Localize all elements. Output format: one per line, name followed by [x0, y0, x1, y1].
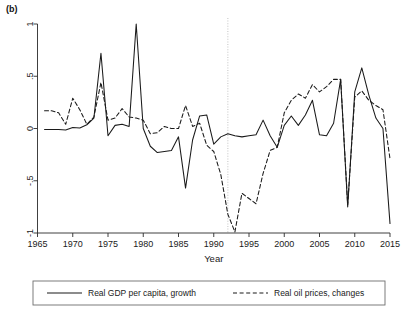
y-tick-label: -.5: [25, 175, 35, 186]
legend-label-1: Real GDP per capita, growth: [88, 288, 196, 298]
series-line-2: [45, 79, 390, 232]
legend-label-2: Real oil prices, changes: [274, 288, 364, 298]
y-tick-label: 0: [25, 126, 35, 131]
plot-area: 1.50-.5-11965197019751980198519901995200…: [25, 18, 401, 305]
y-tick-label: .5: [25, 72, 35, 80]
x-tick-label: 1995: [239, 239, 259, 249]
x-tick-label: 2000: [274, 239, 294, 249]
x-axis-title: Year: [204, 253, 223, 264]
panel-label: (b): [6, 4, 18, 14]
series-line-1: [45, 24, 390, 224]
x-tick-label: 1965: [27, 239, 47, 249]
y-tick-label: -1: [25, 229, 35, 237]
x-tick-label: 2015: [380, 239, 400, 249]
x-tick-label: 1975: [98, 239, 118, 249]
line-chart: 1.50-.5-11965197019751980198519901995200…: [0, 0, 411, 312]
x-tick-label: 2010: [345, 239, 365, 249]
x-tick-label: 1970: [63, 239, 83, 249]
x-tick-label: 1980: [133, 239, 153, 249]
x-tick-label: 2005: [309, 239, 329, 249]
x-tick-label: 1990: [204, 239, 224, 249]
y-tick-label: 1: [25, 21, 35, 26]
x-tick-label: 1985: [168, 239, 188, 249]
figure-panel-b: (b) 1.50-.5-1196519701975198019851990199…: [0, 0, 411, 312]
